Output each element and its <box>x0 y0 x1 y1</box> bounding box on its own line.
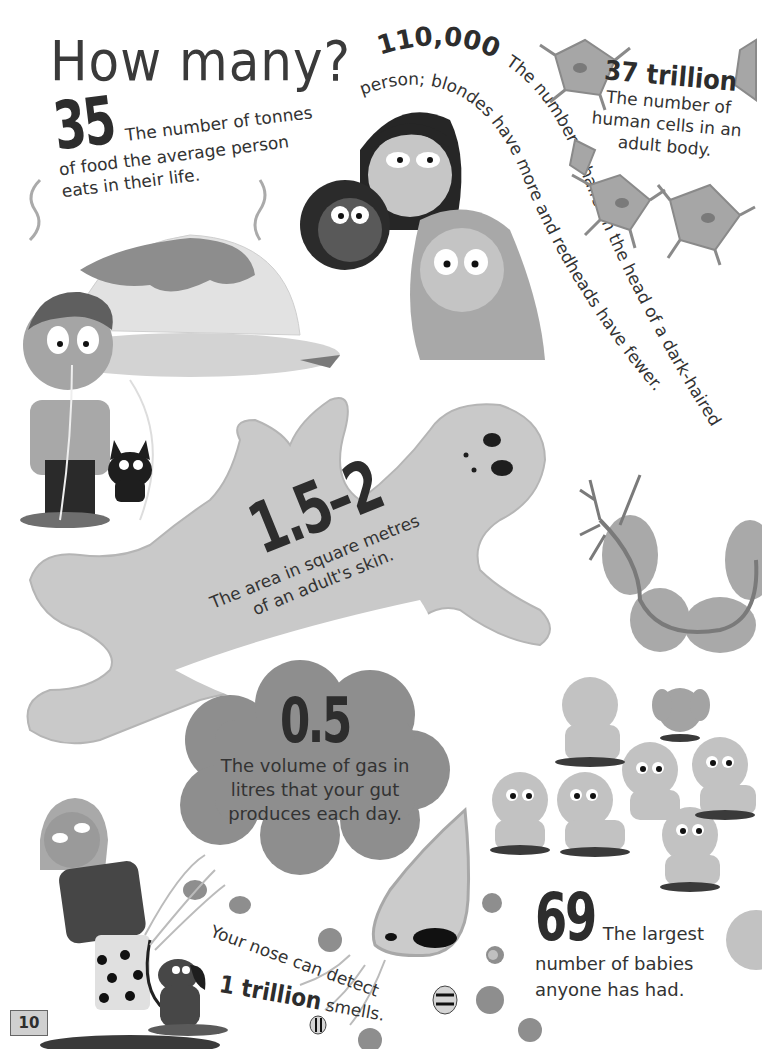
page-number: 10 <box>10 1010 48 1036</box>
